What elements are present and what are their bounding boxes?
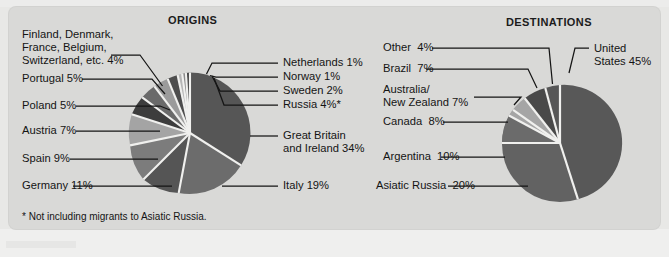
origins-label-great-britain: Great Britain and Ireland 34% [283,129,364,155]
destinations-label-united-states: United States 45% [594,42,651,68]
origins-chart-title: ORIGINS [168,14,217,26]
destinations-label-asiatic-russia: Asiatic Russia 20% [376,179,475,192]
origins-label-poland: Poland 5% [22,99,76,112]
figure-root: ORIGINS DESTINATIONS Finland, Denmark, F… [0,0,669,257]
destinations-label-australia-nz: Australia/ New Zealand 7% [383,83,468,109]
destinations-label-argentina: Argentina 10% [383,150,460,163]
footnote: * Not including migrants to Asiatic Russ… [22,211,207,222]
origins-label-spain: Spain 9% [22,152,70,165]
destinations-pie [502,85,622,202]
destinations-chart-title: DESTINATIONS [506,16,592,28]
origins-label-netherlands: Netherlands 1% [283,56,363,69]
destinations-label-canada: Canada 8% [383,115,445,128]
origins-label-norway: Norway 1% [283,70,340,83]
origins-label-austria: Austria 7% [22,124,76,137]
destinations-label-brazil: Brazil 7% [383,62,433,75]
origins-label-italy: Italy 19% [283,179,329,192]
origins-label-germany: Germany 11% [22,179,93,192]
origins-label-russia: Russia 4%* [283,98,341,111]
origins-label-finland-group: Finland, Denmark, France, Belgium, Switz… [22,28,123,68]
destinations-label-other: Other 4% [383,41,433,54]
origins-label-sweden: Sweden 2% [283,84,343,97]
origins-label-portugal: Portugal 5% [22,72,83,85]
